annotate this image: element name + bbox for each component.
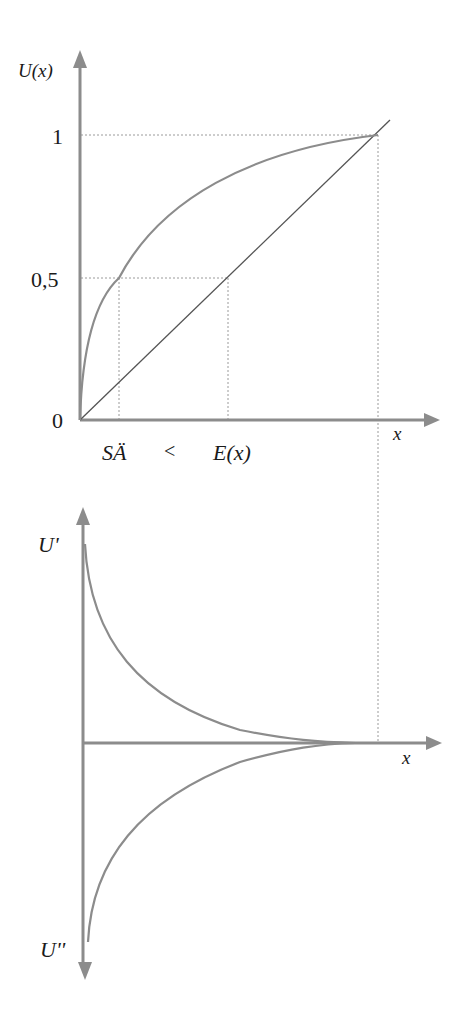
bottom-x-axis-label: x [401, 747, 411, 768]
linear-reference-line [80, 120, 390, 420]
tick-1: 1 [52, 124, 63, 149]
tick-0: 0 [52, 408, 63, 433]
expected-value-label: E(x) [212, 440, 251, 465]
first-derivative-curve [85, 544, 355, 743]
top-chart: U(x) 1 0,5 0 x SÄ < E(x) [18, 50, 440, 743]
bottom-chart: U' x U'' [38, 507, 442, 980]
tick-half: 0,5 [31, 267, 59, 292]
top-y-axis-label: U(x) [18, 60, 53, 82]
top-y-arrow-icon [73, 50, 87, 68]
top-x-axis-label: x [392, 423, 402, 444]
sae-label: SÄ [102, 440, 127, 465]
bottom-x-arrow-icon [426, 736, 442, 750]
utility-diagram: U(x) 1 0,5 0 x SÄ < E(x) U' x U'' [0, 0, 464, 1021]
u-double-prime-label: U'' [40, 937, 66, 962]
less-than-symbol: < [164, 440, 175, 462]
second-derivative-curve [88, 743, 355, 942]
bottom-up-arrow-icon [76, 507, 90, 525]
bottom-down-arrow-icon [78, 962, 92, 980]
guide-lines [81, 135, 378, 743]
top-x-arrow-icon [424, 413, 440, 427]
u-prime-label: U' [38, 532, 59, 557]
